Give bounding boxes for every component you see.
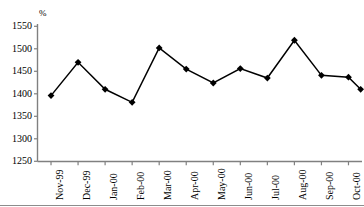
x-tick-label: Aug-00 bbox=[298, 170, 308, 201]
x-tick-label: Jun-00 bbox=[244, 173, 254, 200]
x-tick-label: Apr-00 bbox=[190, 172, 200, 201]
x-tick-label: Mar-00 bbox=[163, 171, 173, 201]
x-tick-label: Oct-00 bbox=[352, 173, 362, 201]
x-axis-tick-labels: Nov-99Dec-99Jan-00Feb-00Mar-00Apr-00May-… bbox=[0, 0, 364, 207]
x-tick-label: Dec-99 bbox=[82, 171, 92, 200]
x-tick-label: Sep-00 bbox=[325, 172, 335, 200]
x-tick-label: May-00 bbox=[217, 169, 227, 201]
line-chart: % 1550150014501400135013001250 Nov-99Dec… bbox=[0, 0, 364, 207]
bottom-divider bbox=[0, 205, 364, 206]
x-tick-label: Jan-00 bbox=[109, 174, 119, 201]
x-tick-label: Nov-99 bbox=[55, 170, 65, 201]
x-tick-label: Feb-00 bbox=[136, 172, 146, 200]
x-tick-label: Jul-00 bbox=[271, 175, 281, 200]
